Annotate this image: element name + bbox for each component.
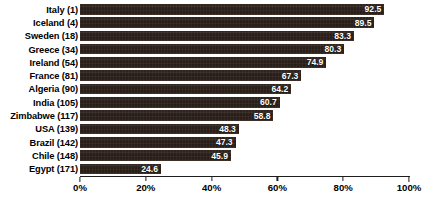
plot-area: Italy (1)92.5Iceland (4)89.5Sweden (18)8… — [80, 3, 409, 176]
bar-row: Ireland (54)74.9 — [80, 56, 409, 69]
category-label: Greece (34) — [28, 45, 78, 55]
x-axis-tick — [277, 177, 278, 181]
bar-value-label: 48.3 — [219, 124, 239, 134]
bar-row: Sweden (18)83.3 — [80, 30, 409, 43]
x-axis-tick-label: 100% — [397, 182, 422, 193]
x-axis-tick-label: 0% — [73, 182, 87, 193]
bar-row: Brazil (142)47.3 — [80, 136, 409, 149]
category-label: Sweden (18) — [25, 31, 78, 41]
bar: 47.3 — [80, 137, 236, 148]
bar-row: Chile (148)45.9 — [80, 149, 409, 162]
bar: 80.3 — [80, 44, 344, 55]
x-axis-tick — [145, 177, 146, 181]
bar-row: Iceland (4)89.5 — [80, 16, 409, 29]
x-axis-tick-label: 40% — [202, 182, 221, 193]
category-label: Italy (1) — [46, 5, 78, 15]
category-label: France (81) — [29, 71, 78, 81]
category-label: Brazil (142) — [30, 138, 78, 148]
x-axis-tick — [211, 177, 212, 181]
category-label: Chile (148) — [32, 151, 78, 161]
category-label: Zimbabwe (117) — [10, 111, 78, 121]
bar-value-label: 89.5 — [355, 18, 375, 28]
bar: 45.9 — [80, 150, 231, 161]
bar-value-label: 24.6 — [141, 164, 161, 174]
category-label: India (105) — [33, 98, 78, 108]
category-label: USA (139) — [35, 124, 78, 134]
bar-value-label: 60.7 — [260, 97, 280, 107]
bar: 24.6 — [80, 164, 161, 175]
bar: 74.9 — [80, 57, 326, 68]
category-label: Algeria (90) — [29, 84, 78, 94]
bar-row: Greece (34)80.3 — [80, 43, 409, 56]
bar-row: Egypt (171)24.6 — [80, 163, 409, 176]
bar: 92.5 — [80, 4, 384, 15]
bar-value-label: 47.3 — [216, 137, 236, 147]
bar-value-label: 74.9 — [307, 57, 327, 67]
bar-value-label: 92.5 — [365, 4, 385, 14]
bar-value-label: 58.8 — [254, 111, 274, 121]
category-label: Ireland (54) — [30, 58, 78, 68]
x-axis-tick-label: 60% — [268, 182, 287, 193]
x-axis-tick-label: 20% — [136, 182, 155, 193]
bar-row: India (105)60.7 — [80, 96, 409, 109]
bar: 58.8 — [80, 110, 273, 121]
category-label: Egypt (171) — [29, 164, 78, 174]
bar-row: France (81)67.3 — [80, 69, 409, 82]
bar-row: Zimbabwe (117)58.8 — [80, 109, 409, 122]
bar: 89.5 — [80, 17, 374, 28]
bar: 60.7 — [80, 97, 280, 108]
category-label: Iceland (4) — [33, 18, 78, 28]
bar-row: Italy (1)92.5 — [80, 3, 409, 16]
x-axis-tick-label: 80% — [334, 182, 353, 193]
bar: 48.3 — [80, 124, 239, 135]
x-axis-tick-labels: 0%20%40%60%80%100% — [80, 182, 409, 198]
bar-value-label: 67.3 — [282, 71, 302, 81]
x-axis-tick — [343, 177, 344, 181]
bar-value-label: 80.3 — [324, 44, 344, 54]
bar-chart: Italy (1)92.5Iceland (4)89.5Sweden (18)8… — [0, 0, 425, 217]
bar-row: Algeria (90)64.2 — [80, 83, 409, 96]
bar: 83.3 — [80, 31, 354, 42]
bar: 64.2 — [80, 84, 291, 95]
bar: 67.3 — [80, 70, 301, 81]
bar-row: USA (139)48.3 — [80, 123, 409, 136]
bar-value-label: 83.3 — [334, 31, 354, 41]
bar-value-label: 45.9 — [211, 151, 231, 161]
bar-value-label: 64.2 — [271, 84, 291, 94]
